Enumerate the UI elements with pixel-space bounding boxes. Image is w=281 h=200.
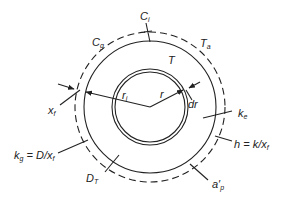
- label-ap: a′p: [212, 178, 224, 192]
- xf-leader: [60, 90, 80, 105]
- label-cg: Cg: [92, 36, 104, 50]
- ke-leader: [203, 111, 232, 118]
- label-xf: xf: [47, 104, 57, 117]
- label-ta: Ta: [200, 37, 211, 50]
- r-radius-line: [150, 90, 183, 107]
- ap-leader: [190, 164, 208, 180]
- particle-diagram: Ci Cg Ta T xf ri r dr ke h = k/xf kg = D…: [0, 0, 281, 200]
- label-r: r: [160, 88, 165, 100]
- xf-arrow-top: [58, 84, 74, 89]
- kg-leader: [58, 140, 88, 153]
- label-ci: Ci: [140, 10, 150, 23]
- ri-radius-line: [86, 92, 150, 107]
- label-h: h = k/xf: [234, 138, 270, 151]
- label-ke: ke: [238, 107, 248, 120]
- label-ri: ri: [122, 89, 128, 102]
- label-t: T: [168, 54, 176, 66]
- label-kg: kg = D/xf: [14, 149, 55, 163]
- label-dr: dr: [188, 98, 199, 110]
- label-dt: DT: [86, 172, 99, 185]
- dr-arrow-in: [189, 82, 200, 88]
